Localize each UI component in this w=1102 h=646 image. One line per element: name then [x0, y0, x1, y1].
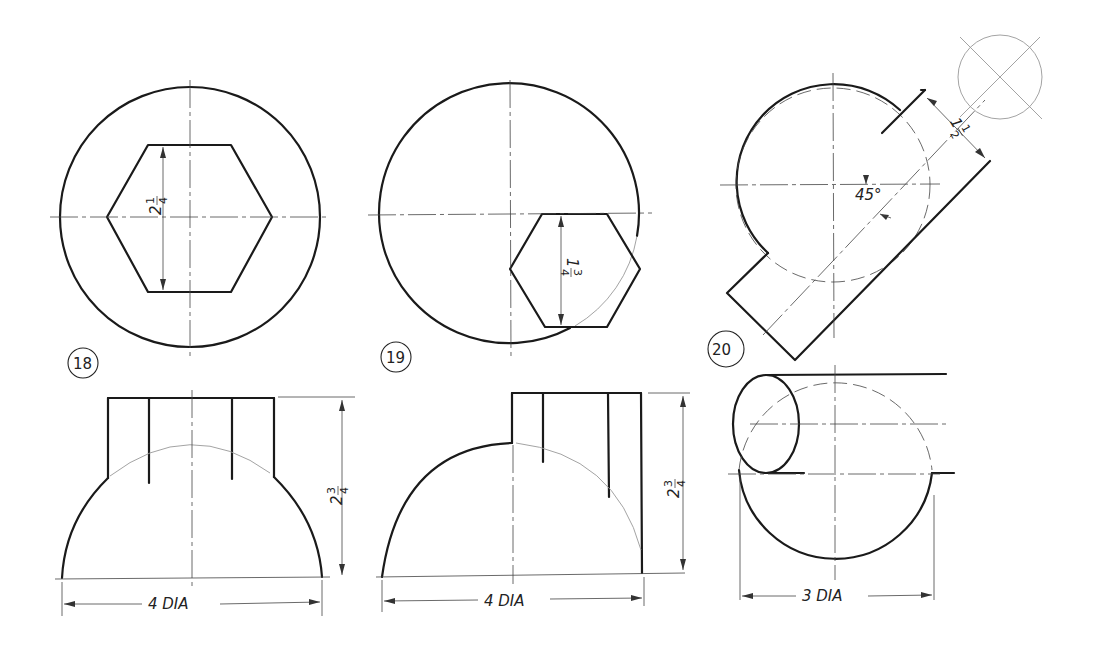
svg-text:2: 2: [947, 129, 962, 142]
svg-text:19: 19: [386, 349, 405, 367]
figure-18-front-view: 2 3 4 4 DIA: [55, 390, 355, 616]
hexagon: [107, 145, 272, 292]
figure-19-front-view: 2 3 4 4 DIA: [376, 393, 690, 612]
svg-text:1: 1: [563, 258, 581, 268]
svg-text:4: 4: [338, 487, 351, 494]
svg-text:4: 4: [675, 480, 688, 487]
figure-19-label: 19: [381, 342, 411, 372]
svg-text:3: 3: [662, 480, 675, 487]
svg-text:20: 20: [712, 341, 731, 359]
svg-text:2: 2: [147, 205, 165, 215]
figure-19-top-view: 1 3 4: [368, 80, 652, 357]
intersection-curve: [110, 445, 270, 476]
hex-dimension-label: 1 3 4: [558, 258, 584, 277]
figure-20-front-view: 3 DIA: [728, 365, 954, 605]
svg-text:3: 3: [571, 269, 584, 276]
figure-18-top-view: 2 1 4: [50, 80, 330, 358]
svg-text:2: 2: [665, 488, 683, 498]
svg-text:2: 2: [328, 495, 346, 505]
figure-18-label: 18: [68, 348, 98, 378]
arrow-up-icon: [160, 147, 166, 158]
technical-drawing-sheet: 2 1 4 18 2 3 4: [0, 0, 1102, 646]
width-dimension-label: 4 DIA: [148, 595, 189, 613]
height-dimension-label: 2 3 4: [325, 486, 351, 505]
outer-arc: [737, 84, 900, 253]
lower-arc: [739, 470, 932, 559]
figure-20-label: 20: [708, 331, 744, 367]
width-dimension-label: 4 DIA: [484, 592, 525, 610]
height-dimension-label: 2 3 4: [662, 479, 688, 498]
svg-text:4: 4: [558, 269, 571, 276]
svg-text:3: 3: [325, 487, 338, 494]
svg-text:1: 1: [144, 197, 157, 204]
arrow-down-icon: [160, 279, 166, 290]
width-dimension-label: 3 DIA: [802, 587, 843, 605]
figure-20-top-view: 1 1 2 45°: [720, 35, 1042, 360]
svg-text:18: 18: [73, 355, 92, 373]
hex-dimension-label: 2 1 4: [144, 196, 170, 215]
angle-label: 45°: [855, 186, 882, 204]
svg-text:4: 4: [157, 197, 170, 204]
